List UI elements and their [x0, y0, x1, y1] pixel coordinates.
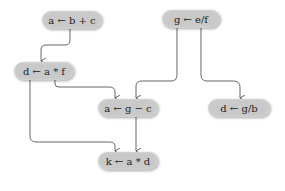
node-d-af: d ← a * f — [14, 62, 74, 80]
node-d-gb: d ← g/b — [208, 99, 270, 117]
edge-gef-to-agc — [136, 28, 177, 98]
node-k-ad: k ← a * d — [98, 152, 158, 170]
node-g-ef: g ← e/f — [162, 10, 220, 28]
node-a-gc: a ← g − c — [98, 99, 158, 117]
edge-abc-to-daf — [41, 29, 70, 61]
edge-gef-to-dgb — [201, 28, 240, 98]
edge-daf-to-agc — [55, 80, 115, 98]
node-a-bc: a ← b + c — [42, 11, 102, 29]
dataflow-diagram: a ← b + c g ← e/f d ← a * f a ← g − c d … — [0, 0, 285, 191]
